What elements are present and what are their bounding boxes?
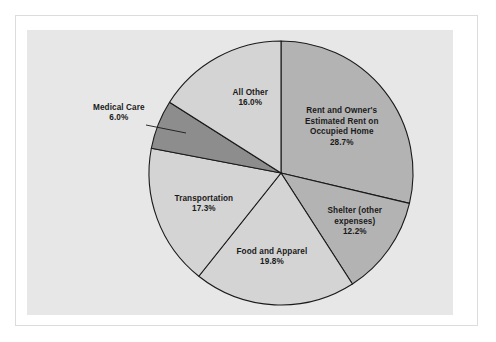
slice-label-percent: 19.8% [237, 257, 308, 268]
slice-label-percent: 17.3% [175, 204, 234, 215]
slice-label-transportation: Transportation17.3% [175, 194, 234, 215]
slice-label-all-other: All Other16.0% [233, 88, 268, 109]
slice-label-shelter: Shelter (otherexpenses)12.2% [328, 206, 383, 238]
slice-label-food-and-apparel: Food and Apparel19.8% [237, 247, 308, 268]
slice-label-percent: 28.7% [305, 138, 379, 149]
slice-label-medical-care: Medical Care6.0% [93, 103, 145, 124]
slice-label-line: expenses) [328, 217, 383, 228]
slice-label-line: Rent and Owner's [305, 106, 379, 117]
slice-label-percent: 16.0% [233, 98, 268, 109]
slice-label-rent: Rent and Owner'sEstimated Rent onOccupie… [305, 106, 379, 148]
slice-label-line: Transportation [175, 194, 234, 205]
slice-label-percent: 6.0% [109, 113, 128, 122]
slice-label-line: Shelter (other [328, 206, 383, 217]
slice-label-line: All Other [233, 88, 268, 99]
pie-chart [0, 0, 496, 342]
slice-label-line: Estimated Rent on [305, 117, 379, 128]
slice-label-line: Food and Apparel [237, 247, 308, 258]
figure-root: Rent and Owner'sEstimated Rent onOccupie… [0, 0, 496, 342]
slice-label-line: Occupied Home [305, 127, 379, 138]
slice-label-percent: 12.2% [328, 227, 383, 238]
slice-label-line: Medical Care [93, 103, 145, 114]
